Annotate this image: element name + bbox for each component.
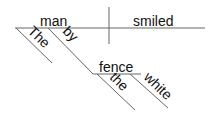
- object-adjective-word: white: [140, 68, 175, 103]
- sentence-diagram: man smiled The by fence the white: [0, 0, 215, 119]
- predicate-word: smiled: [133, 13, 173, 29]
- subject-word: man: [40, 13, 67, 29]
